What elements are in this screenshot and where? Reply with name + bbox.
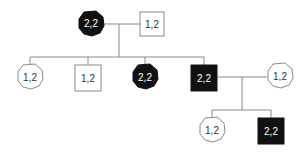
genotype-label: 2,2 (84, 18, 98, 29)
genotype-label: 1,2 (23, 72, 37, 83)
g2-daughter-1: 1,2 (18, 64, 43, 89)
g3-son: 2,2 (258, 118, 284, 144)
genotype-label: 1,2 (273, 71, 287, 82)
genotype-label: 2,2 (264, 126, 278, 137)
genotype-label: 2,2 (138, 72, 152, 83)
g3-daughter: 1,2 (200, 117, 225, 142)
g2-son-1: 1,2 (75, 65, 101, 91)
g2-daughter-2: 2,2 (133, 64, 158, 89)
g2-son-2: 2,2 (191, 65, 217, 91)
g1-mother: 2,2 (79, 11, 104, 36)
genotype-label: 2,2 (197, 73, 211, 84)
g2-spouse: 1,2 (268, 63, 293, 88)
pedigree-diagram: 2,2 1,2 1,2 1,2 2,2 2,2 1,2 1,2 2,2 (0, 0, 308, 154)
genotype-label: 1,2 (81, 73, 95, 84)
genotype-label: 1,2 (145, 19, 159, 30)
g1-father: 1,2 (140, 12, 164, 36)
genotype-label: 1,2 (205, 125, 219, 136)
